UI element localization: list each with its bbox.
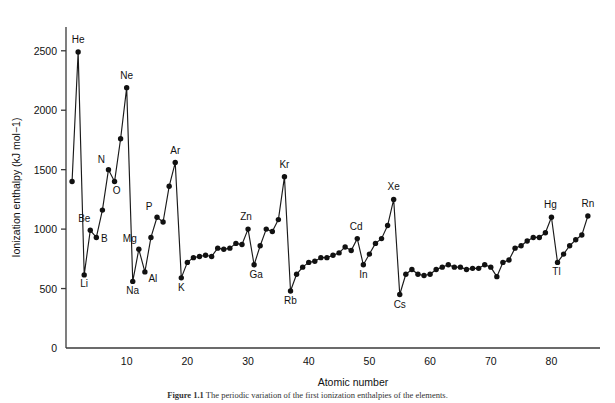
data-point [312,259,317,264]
data-point [179,275,184,280]
data-point [215,245,220,250]
data-point-label: Ne [120,70,133,81]
data-point [482,262,487,267]
data-point [191,255,196,260]
data-point [160,219,165,224]
data-point [476,266,481,271]
data-point [185,260,190,265]
data-point [440,264,445,269]
data-point [561,251,566,256]
data-point [288,288,293,293]
data-point [506,257,511,262]
data-point-label: N [98,154,105,165]
data-point [257,243,262,248]
data-point [415,272,420,277]
data-point [75,49,80,54]
data-point [142,269,147,274]
y-tick-label: 2500 [34,45,58,57]
data-point-label: Xe [388,181,401,192]
y-axis-title: Ionization enthalpy (kJ mol−1) [10,118,22,258]
data-point [251,262,256,267]
data-point [282,174,287,179]
data-point [367,251,372,256]
data-point-label: Cd [350,221,363,232]
data-point [500,260,505,265]
x-tick-label: 60 [424,355,436,367]
figure-container: 050010001500200025001020304050607080 HeL… [0,0,615,403]
data-point-label: In [359,269,367,280]
data-point-label: O [113,185,121,196]
x-tick-label: 40 [303,355,315,367]
data-point-label: Ar [170,145,181,156]
data-point [373,241,378,246]
data-point-label: Li [80,278,88,289]
data-point [537,235,542,240]
data-point [154,215,159,220]
x-tick-label: 50 [364,355,376,367]
data-point [112,179,117,184]
data-point [349,248,354,253]
data-point [543,230,548,235]
data-point [130,279,135,284]
data-point [403,272,408,277]
data-point [494,274,499,279]
data-point-label: Hg [544,199,557,210]
data-point-label: P [146,201,153,212]
data-point [355,236,360,241]
data-point [433,267,438,272]
data-point [270,229,275,234]
data-point-label: Tl [552,266,560,277]
data-point [421,273,426,278]
data-point [567,243,572,248]
data-point [573,237,578,242]
data-point [173,160,178,165]
data-point [69,179,74,184]
data-point [294,272,299,277]
data-point [427,272,432,277]
axes-group: 050010001500200025001020304050607080 [34,27,600,367]
x-axis-title: Atomic number [318,376,389,388]
x-tick-label: 80 [546,355,558,367]
data-point [458,264,463,269]
data-point [488,264,493,269]
data-point-label: Ga [249,269,263,280]
data-point [391,197,396,202]
data-point [555,260,560,265]
x-tick-label: 10 [121,355,133,367]
data-point [300,264,305,269]
data-point [379,236,384,241]
data-point [124,85,129,90]
data-point [106,167,111,172]
data-point [336,250,341,255]
data-point [94,235,99,240]
data-point-label: Al [148,273,157,284]
data-point [330,253,335,258]
data-point [306,260,311,265]
data-point [88,228,93,233]
data-point [518,243,523,248]
data-point [361,262,366,267]
data-point [512,245,517,250]
data-point [324,255,329,260]
data-point [446,262,451,267]
figure-caption-label: Figure 1.1 [167,390,204,400]
data-point [221,247,226,252]
data-point [227,245,232,250]
y-tick-label: 2000 [34,104,58,116]
y-tick-label: 1500 [34,164,58,176]
x-tick-label: 20 [182,355,194,367]
data-point-label: Kr [279,159,290,170]
figure-caption-text: The periodic variation of the first ioni… [206,390,448,400]
data-point [397,292,402,297]
data-point [118,136,123,141]
x-tick-label: 30 [242,355,254,367]
data-point [245,226,250,231]
data-point-label: Rn [581,198,594,209]
y-tick-label: 1000 [34,223,58,235]
data-point [82,272,87,277]
data-point [100,207,105,212]
data-point [409,267,414,272]
y-tick-label: 0 [51,342,57,354]
data-point [136,247,141,252]
data-point [385,223,390,228]
